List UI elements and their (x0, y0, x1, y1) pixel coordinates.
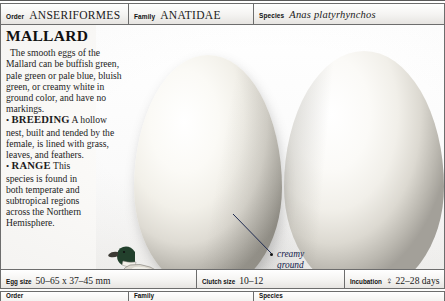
incubation-label: Incubation (350, 272, 382, 285)
footer-cell-incubation: Incubation ♀ 22–28 days (344, 269, 445, 289)
next-header-cell-family: Family (128, 291, 253, 301)
next-order-label: Order (6, 292, 23, 300)
mallard-drake-illustration (105, 243, 179, 269)
plate-area: creamy ground MALLARD The smooth eggs of… (0, 25, 445, 269)
section-breeding-keyword: BREEDING (12, 114, 70, 125)
next-family-label: Family (134, 292, 154, 300)
next-header-cell-order: Order (0, 291, 128, 301)
clutch-size-label: Clutch size (202, 272, 235, 285)
header-cell-order: Order ANSERIFORMES (0, 3, 128, 25)
footer-cell-clutch-size: Clutch size 10–12 (196, 269, 344, 289)
species-label: Species (259, 6, 284, 19)
callout-creamy-ground: creamy ground (277, 249, 304, 269)
family-label: Family (134, 7, 155, 20)
header-cell-family: Family ANATIDAE (128, 3, 253, 25)
egg-size-value: 50–65 x 37–45 mm (36, 270, 111, 286)
entry-title: MALLARD (6, 28, 122, 44)
order-value: ANSERIFORMES (29, 4, 120, 21)
header-cell-species: Species Anas platyrhynchos (253, 3, 445, 25)
taxonomy-header: Order ANSERIFORMES Family ANATIDAE Speci… (0, 3, 445, 25)
footer-cell-egg-size: Egg size 50–65 x 37–45 mm (0, 269, 196, 289)
callout-marker-dot (270, 253, 273, 256)
field-guide-page: Order ANSERIFORMES Family ANATIDAE Speci… (0, 0, 445, 301)
clutch-size-value: 10–12 (239, 270, 263, 286)
section-range-keyword: RANGE (12, 160, 51, 171)
bullet-icon-breeding: • (6, 115, 9, 125)
section-range: • RANGE This species is found in both te… (6, 160, 84, 228)
incubation-value: ♀ 22–28 days (386, 270, 440, 286)
species-value: Anas platyrhynchos (289, 4, 376, 20)
next-species-label: Species (259, 292, 283, 300)
egg-size-label: Egg size (6, 272, 32, 285)
next-entry-header: Order Family Species (0, 291, 445, 301)
entry-text-column: MALLARD The smooth eggs of the Mallard c… (6, 28, 122, 229)
egg-data-footer: Egg size 50–65 x 37–45 mm Clutch size 10… (0, 269, 445, 289)
family-value: ANATIDAE (160, 4, 221, 21)
next-header-cell-species: Species (253, 291, 445, 301)
entry-description: The smooth eggs of the Mallard can be bu… (6, 47, 122, 114)
order-label: Order (6, 7, 24, 20)
section-breeding: • BREEDING A hollow nest, built and tend… (6, 114, 122, 160)
bullet-icon-range: • (6, 161, 9, 171)
